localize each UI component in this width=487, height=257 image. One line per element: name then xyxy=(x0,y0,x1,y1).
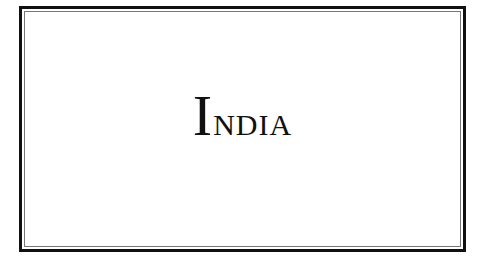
title-card-frame: India xyxy=(19,6,466,252)
page-title: India xyxy=(22,91,463,146)
title-initial: I xyxy=(193,83,213,148)
title-rest: ndia xyxy=(213,97,292,144)
